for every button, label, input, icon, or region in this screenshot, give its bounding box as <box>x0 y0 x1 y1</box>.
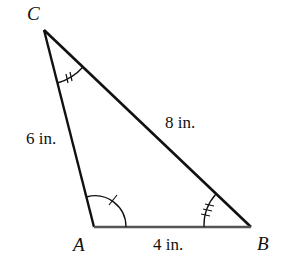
side-label-ab: 4 in. <box>153 235 183 254</box>
triangle-diagram: C A B 6 in. 8 in. 4 in. <box>0 0 281 263</box>
side-cb <box>44 30 251 227</box>
side-label-cb: 8 in. <box>165 113 195 132</box>
vertex-label-a: A <box>71 234 85 255</box>
angle-mark-b <box>201 194 216 227</box>
angle-mark-c <box>58 67 84 83</box>
vertex-label-b: B <box>257 233 269 254</box>
vertex-label-c: C <box>27 3 40 24</box>
side-label-ac: 6 in. <box>26 129 56 148</box>
